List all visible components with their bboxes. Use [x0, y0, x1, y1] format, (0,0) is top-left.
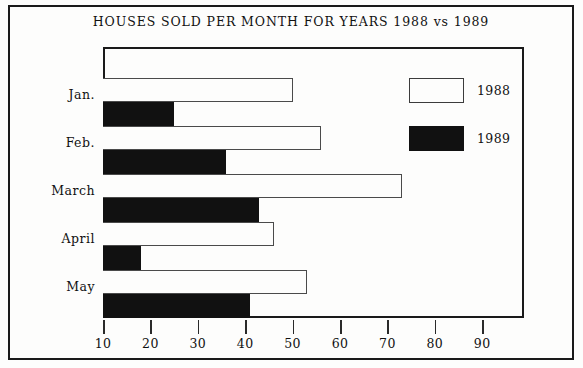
chart-legend: 19881989	[409, 78, 519, 158]
x-axis-tick-40	[245, 320, 247, 334]
x-axis-tick-label-70: 70	[379, 336, 396, 351]
x-axis-tick-60	[340, 320, 342, 334]
chart-figure: HOUSES SOLD PER MONTH FOR YEARS 1988 vs …	[0, 0, 583, 368]
x-axis-tick-90	[482, 320, 484, 334]
x-axis-tick-label-80: 80	[426, 336, 443, 351]
bar-1988-jan	[103, 78, 293, 102]
x-axis-tick-label-30: 30	[189, 336, 206, 351]
legend-row-1988: 1988	[409, 78, 519, 104]
legend-row-1989: 1989	[409, 126, 519, 152]
x-axis-tick-70	[387, 320, 389, 334]
x-axis-tick-label-40: 40	[237, 336, 254, 351]
x-axis-tick-20	[150, 320, 152, 334]
x-axis-tick-80	[435, 320, 437, 334]
bar-1989-jan	[103, 102, 174, 126]
y-axis-category-labels: Jan.Feb.MarchAprilMay	[0, 47, 95, 318]
y-axis-label-april: April	[62, 231, 96, 246]
x-axis-tick-label-90: 90	[474, 336, 491, 351]
chart-title: HOUSES SOLD PER MONTH FOR YEARS 1988 vs …	[8, 14, 574, 29]
legend-label-1989: 1989	[477, 131, 510, 146]
x-axis-tick-label-60: 60	[332, 336, 349, 351]
y-axis-label-feb: Feb.	[66, 135, 95, 150]
legend-swatch-1989	[409, 126, 464, 151]
legend-swatch-1988	[409, 78, 464, 103]
bar-1988-april	[103, 222, 274, 246]
bar-1988-may	[103, 270, 307, 294]
bar-1989-march	[103, 198, 259, 222]
bar-1989-may	[103, 294, 250, 318]
y-axis-label-march: March	[51, 183, 95, 198]
bar-1989-april	[103, 246, 141, 270]
x-axis-tick-label-10: 10	[95, 336, 112, 351]
legend-label-1988: 1988	[477, 83, 510, 98]
bar-1989-feb	[103, 150, 226, 174]
x-axis-tick-10	[103, 320, 105, 334]
x-axis-tick-label-20: 20	[142, 336, 159, 351]
y-axis-label-jan: Jan.	[69, 87, 96, 102]
bar-1988-march	[103, 174, 402, 198]
bar-1988-feb	[103, 126, 321, 150]
x-axis-tick-label-50: 50	[284, 336, 301, 351]
x-axis-tick-50	[293, 320, 295, 334]
y-axis-label-may: May	[66, 279, 95, 294]
x-axis: 102030405060708090	[103, 318, 524, 360]
x-axis-tick-30	[198, 320, 200, 334]
